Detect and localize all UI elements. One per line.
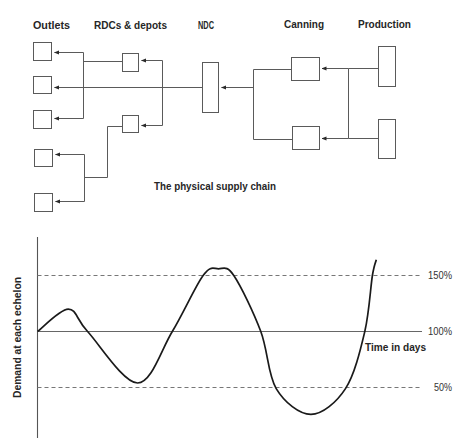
outlet-box-4 (35, 150, 53, 167)
y-axis-label: Demand at each echelon (11, 277, 23, 398)
column-label-ndc: NDC (198, 19, 214, 31)
outlet-box-1 (34, 43, 52, 61)
column-label-production: Production (358, 18, 411, 30)
column-label-rdcs: RDCs & depots (94, 19, 167, 31)
ndc-box (203, 63, 219, 113)
outlet-box-5 (35, 194, 53, 212)
supply-chain-diagram: Outlets RDCs & depots NDC Canning Produc… (33, 18, 411, 212)
production-box-2 (379, 120, 396, 159)
diagram-caption: The physical supply chain (154, 180, 276, 192)
reference-label-50: 50% (434, 381, 452, 393)
outlet-box-2 (34, 77, 52, 94)
column-label-outlets: Outlets (33, 19, 70, 31)
reference-label-150: 150% (428, 269, 452, 281)
reference-label-100: 100% (428, 325, 452, 337)
column-label-canning: Canning (284, 18, 324, 30)
demand-chart: Demand at each echelon 150% 100% 50% Tim… (11, 237, 452, 438)
rdc-box-1 (123, 54, 139, 72)
canning-box-1 (292, 58, 320, 81)
x-axis-label: Time in days (365, 341, 426, 353)
outlet-box-3 (34, 111, 52, 129)
demand-curve (38, 260, 377, 415)
supply-chain-figure: Outlets RDCs & depots NDC Canning Produc… (0, 0, 469, 448)
canning-box-2 (293, 127, 320, 150)
rdc-box-2 (123, 116, 139, 133)
production-box-1 (379, 47, 396, 87)
